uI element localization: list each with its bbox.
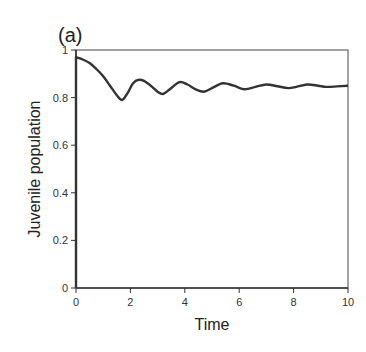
y-tick-label: 0.6 xyxy=(53,139,68,151)
panel-label: (a) xyxy=(58,24,82,46)
y-tick-label: 0 xyxy=(62,282,68,294)
x-axis-title: Time xyxy=(195,316,230,333)
data-series xyxy=(76,57,348,288)
x-tick-label: 6 xyxy=(236,296,242,308)
chart: 00.20.40.60.81 0246810 (a) Time Juvenile… xyxy=(0,0,366,352)
y-axis-ticks: 00.20.40.60.81 xyxy=(53,44,76,294)
x-tick-label: 2 xyxy=(127,296,133,308)
y-tick-label: 0.2 xyxy=(53,234,68,246)
y-tick-label: 0.4 xyxy=(53,187,68,199)
series-line xyxy=(76,57,348,288)
x-tick-label: 8 xyxy=(291,296,297,308)
x-tick-label: 10 xyxy=(342,296,354,308)
x-tick-label: 4 xyxy=(182,296,188,308)
y-tick-label: 0.8 xyxy=(53,92,68,104)
y-axis-title: Juvenile population xyxy=(26,101,43,238)
x-axis-ticks: 0246810 xyxy=(73,288,354,308)
x-tick-label: 0 xyxy=(73,296,79,308)
